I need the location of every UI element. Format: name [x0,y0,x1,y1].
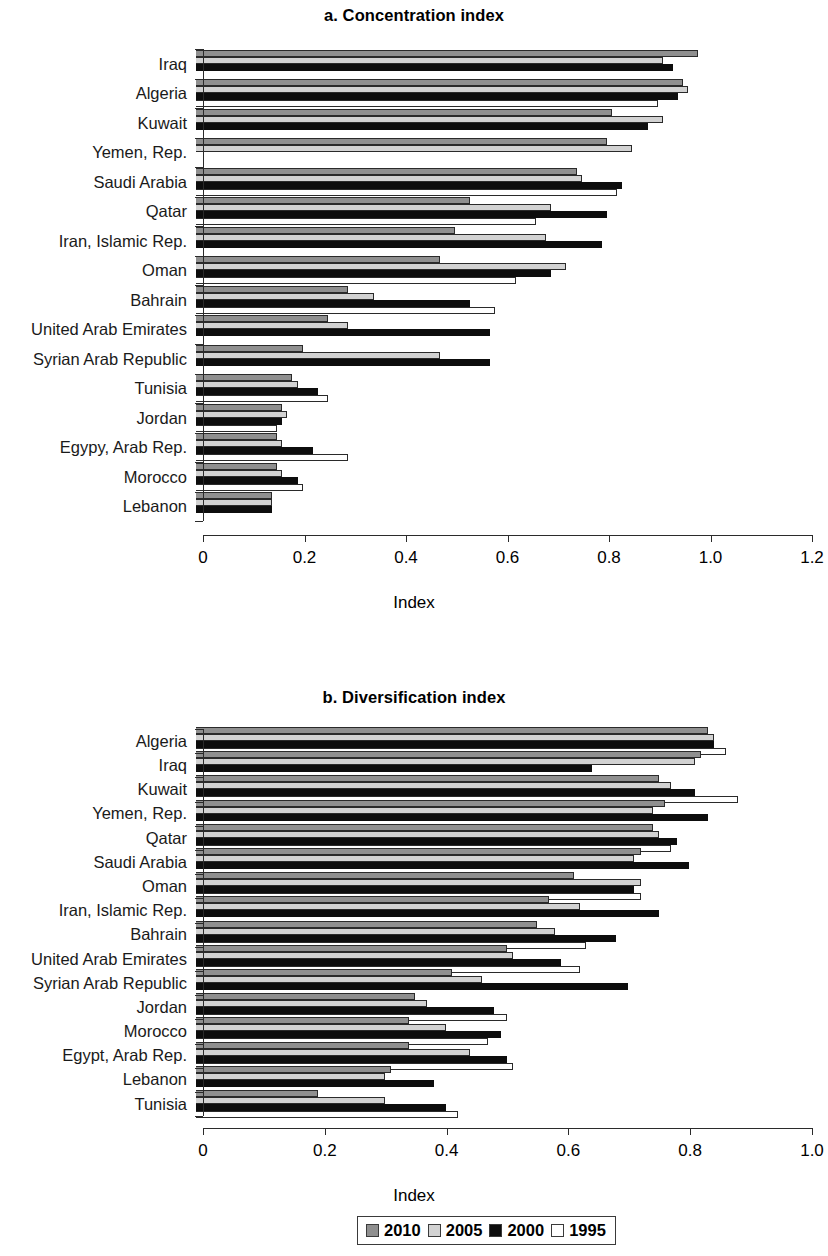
bar-2000 [196,814,708,821]
legend-item-1995: 1995 [551,1221,606,1240]
bar-2010 [196,227,455,234]
legend-item-2000: 2000 [489,1221,544,1240]
bar-2005 [196,1000,427,1007]
y-axis-tick [195,49,203,50]
panel-b-title: b. Diversification index [0,688,828,707]
category-label: Bahrain [0,292,196,309]
category-label: Morocco [0,1023,196,1040]
bar-2005 [196,1073,385,1080]
chart-row: Kuwait [0,108,828,138]
category-label: Oman [0,878,196,895]
bar-2000 [196,506,272,513]
bar-group [196,286,828,314]
y-axis-tick [195,433,203,434]
bar-rows: IraqAlgeriaKuwaitYemen, Rep.Saudi Arabia… [0,49,828,521]
bar-2010 [196,50,698,57]
y-axis-tick [195,947,203,948]
bar-2010 [196,168,577,175]
x-axis-tick [711,535,712,542]
chart-row: Bahrain [0,923,828,947]
bar-2005 [196,175,582,182]
bar-2005 [196,381,298,388]
bar-2010 [196,404,282,411]
x-axis-tick [609,535,610,542]
bar-2010 [196,79,683,86]
bar-2005 [196,807,653,814]
bar-group [196,197,828,225]
y-axis-tick [195,79,203,80]
chart-row: Qatar [0,197,828,227]
category-label: Algeria [0,733,196,750]
x-axis-tick-label: 0.6 [496,548,520,568]
category-label: Jordan [0,410,196,427]
y-axis-tick [195,374,203,375]
x-axis-tick-label: 0.2 [293,548,317,568]
bar-group [196,315,828,343]
bar-2000 [196,93,678,100]
bar-2010 [196,751,701,758]
chart-row: United Arab Emirates [0,315,828,345]
bar-1995 [196,1111,458,1118]
bar-2005 [196,293,374,300]
y-axis-tick [195,1044,203,1045]
category-label: Kuwait [0,781,196,798]
legend-label: 2005 [446,1221,483,1240]
bar-2010 [196,1042,409,1049]
bar-2005 [196,1049,470,1056]
category-label: Jordan [0,999,196,1016]
x-axis-tick [812,535,813,542]
chart-row: Lebanon [0,1068,828,1092]
category-label: United Arab Emirates [0,951,196,968]
bar-group [196,374,828,402]
x-axis-tick [447,1128,448,1135]
legend: 2010200520001995 [357,1216,616,1245]
x-axis-tick-label: 0 [198,548,207,568]
category-label: Algeria [0,85,196,102]
x-axis-tick [305,535,306,542]
chart-row: Egypt, Arab Rep. [0,1043,828,1067]
category-label: Iraq [0,56,196,73]
y-axis-tick [195,898,203,899]
bar-2010 [196,197,470,204]
bar-2010 [196,993,415,1000]
y-axis-line [203,49,204,521]
legend-label: 2000 [507,1221,544,1240]
bar-2005 [196,734,714,741]
bar-2005 [196,928,555,935]
bar-2010 [196,433,277,440]
category-label: Tunisia [0,1096,196,1113]
chart-row: Iran, Islamic Rep. [0,898,828,922]
bar-group [196,79,828,107]
x-axis-line [203,1128,813,1129]
bar-group [196,168,828,196]
y-axis-tick [195,850,203,851]
y-axis-tick [195,344,203,345]
chart-row: Saudi Arabia [0,850,828,874]
y-axis-tick [195,167,203,168]
bar-2005 [196,782,671,789]
bar-2010 [196,872,574,879]
chart-row: Algeria [0,729,828,753]
chart-row: Algeria [0,79,828,109]
bar-2010 [196,848,641,855]
bar-group [196,492,828,520]
bar-2000 [196,935,616,942]
bar-2010 [196,374,292,381]
chart-row: United Arab Emirates [0,947,828,971]
bar-2010 [196,896,549,903]
bar-2010 [196,109,612,116]
bar-2000 [196,300,470,307]
chart-row: Bahrain [0,285,828,315]
legend-swatch-icon [428,1224,441,1237]
bar-2005 [196,234,546,241]
bar-group [196,227,828,255]
x-axis-tick-label: 0 [198,1141,207,1161]
x-axis-tick [325,1128,326,1135]
y-axis-tick [195,315,203,316]
bar-1995 [196,454,348,461]
bar-2005 [196,976,482,983]
bar-2000 [196,862,689,869]
category-label: Tunisia [0,380,196,397]
x-axis-title: Index [0,1186,828,1206]
bar-group [196,345,828,373]
